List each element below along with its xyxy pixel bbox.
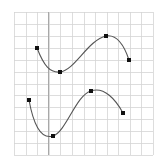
lower-curve [27, 89, 125, 138]
control-point-marker [58, 70, 62, 74]
control-point-marker [104, 34, 108, 38]
curve-path [37, 36, 129, 72]
control-point-marker [27, 98, 31, 102]
curve-diagram [0, 0, 162, 168]
curves [27, 34, 131, 138]
control-point-marker [89, 89, 93, 93]
control-point-marker [127, 58, 131, 62]
control-point-marker [51, 134, 55, 138]
control-point-marker [121, 111, 125, 115]
curve-path [29, 90, 123, 137]
control-point-marker [35, 46, 39, 50]
grid [14, 12, 154, 156]
